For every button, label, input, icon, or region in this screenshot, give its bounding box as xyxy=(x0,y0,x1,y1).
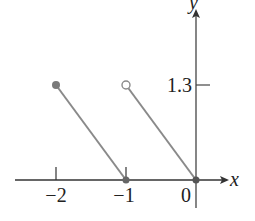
x-tick-label-neg1: −1 xyxy=(113,184,134,206)
closed-dot-neg2 xyxy=(52,81,60,89)
open-dot-neg1 xyxy=(122,81,130,89)
y-axis-label: y xyxy=(187,0,198,14)
segment-1-line xyxy=(56,85,126,180)
x-tick-label-neg2: −2 xyxy=(45,184,66,206)
closed-dot-neg1-zero xyxy=(123,177,130,184)
y-tick-label-1-3: 1.3 xyxy=(167,74,192,96)
x-tick-label-0: 0 xyxy=(181,184,191,206)
graph: −2 −1 0 1.3 x y xyxy=(0,0,255,221)
closed-dot-origin xyxy=(193,177,200,184)
x-axis-label: x xyxy=(229,168,239,190)
segment-2-line xyxy=(126,85,196,180)
